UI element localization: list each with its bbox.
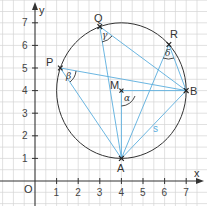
x-tick-1: 1 [54, 187, 60, 198]
x-tick-2: 2 [75, 187, 81, 198]
y-tick-6: 6 [22, 40, 28, 51]
y-axis-arrow-icon [32, 2, 38, 10]
y-tick-3: 3 [22, 108, 28, 119]
y-tick-5: 5 [22, 63, 28, 74]
x-tick-5: 5 [140, 187, 146, 198]
segment-s-label: s [153, 123, 158, 134]
point-Q-label: Q [94, 12, 103, 24]
point-A-label: A [117, 162, 125, 174]
x-tick-6: 6 [162, 187, 168, 198]
y-tick-4: 4 [22, 85, 28, 96]
x-tick-7: 7 [183, 187, 189, 198]
angle-arcs [70, 36, 174, 106]
y-axis-label: y [39, 4, 45, 16]
point-R-label: R [170, 28, 178, 40]
point-M-label: M [110, 79, 119, 91]
origin-label: O [24, 183, 33, 195]
x-axis-label: x [194, 167, 200, 179]
x-tick-4: 4 [118, 187, 124, 198]
angle-delta-label: δ [165, 48, 170, 58]
tick-marks [32, 23, 186, 184]
x-tick-3: 3 [97, 187, 103, 198]
y-tick-1: 1 [22, 153, 28, 164]
y-tick-2: 2 [22, 130, 28, 141]
angle-gamma-label: γ [102, 30, 108, 40]
point-B-label: B [190, 85, 197, 97]
point-P-label: P [46, 56, 53, 68]
inscribed-angle-diagram: 1 2 3 4 5 6 7 1 2 3 4 5 6 7 O x y s α β … [0, 0, 207, 206]
angle-beta-label: β [65, 71, 71, 81]
angle-alpha-label: α [124, 93, 130, 103]
y-tick-7: 7 [22, 17, 28, 28]
point-R-marker [167, 42, 172, 47]
angle-arc-delta [163, 58, 174, 59]
